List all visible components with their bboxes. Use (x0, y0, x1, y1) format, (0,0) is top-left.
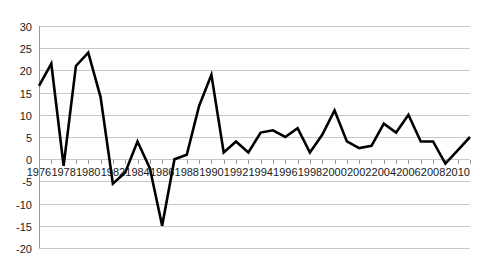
x-axis-tick-label: 1992 (224, 166, 248, 178)
x-axis-tick-label: 1990 (199, 166, 223, 178)
x-axis-tick-label: 1978 (51, 166, 75, 178)
chart-canvas: 302520151050-5-10-15-20 1976197819801982… (0, 0, 480, 265)
x-axis-tick-label: 2010 (445, 166, 469, 178)
x-axis-tick-label: 1984 (125, 166, 149, 178)
x-axis-tick-label: 2002 (347, 166, 371, 178)
x-axis-tick-label: 2008 (421, 166, 445, 178)
x-axis-tick-labels: 1976197819801982198419861988199019921994… (27, 166, 470, 178)
y-axis-tick-label: 30 (20, 21, 32, 33)
y-axis-tick-label: 0 (26, 154, 32, 166)
x-axis-tick-label: 2006 (396, 166, 420, 178)
y-axis-tick-label: -10 (16, 199, 32, 211)
x-axis-tick-label: 1980 (76, 166, 100, 178)
line-chart: 302520151050-5-10-15-20 1976197819801982… (0, 0, 480, 265)
y-axis-tick-label: 10 (20, 110, 32, 122)
y-axis-tick-label: 5 (26, 132, 32, 144)
y-axis-tick-label: -15 (16, 221, 32, 233)
x-axis-tick-label: 1988 (175, 166, 199, 178)
x-axis-tick-label: 1998 (298, 166, 322, 178)
y-axis-tick-label: 25 (20, 43, 32, 55)
x-axis-tick-label: 2000 (322, 166, 346, 178)
x-axis-tick-label: 1994 (248, 166, 272, 178)
x-axis-tick-label: 1996 (273, 166, 297, 178)
y-axis-tick-label: -20 (16, 243, 32, 255)
x-axis-tick-label: 2004 (372, 166, 396, 178)
y-axis-tick-label: 20 (20, 65, 32, 77)
chart-background (0, 0, 480, 265)
y-axis-tick-label: 15 (20, 88, 32, 100)
